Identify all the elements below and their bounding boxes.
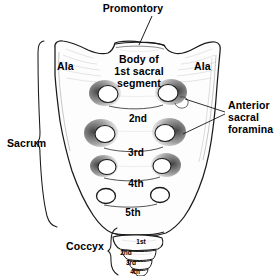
sacrum-brace — [36, 41, 57, 227]
label-coccygeal-segment-4th: 4th — [130, 268, 140, 276]
label-coccygeal-segment-1st: 1st — [136, 238, 145, 246]
label-anterior-line2: sacral — [228, 111, 259, 123]
label-sacral-segment-4th: 4th — [128, 178, 143, 190]
label-promontory: Promontory — [103, 2, 164, 14]
label-body-line1: Body of — [119, 53, 159, 65]
label-body-line3: segment — [117, 77, 161, 89]
sacrum-diagram: Promontory Ala Ala Body of 1st sacral se… — [0, 0, 277, 276]
label-anterior-line3: foramina — [228, 123, 273, 135]
label-coccygeal-segment-3rd: 3rd — [126, 259, 136, 267]
foramen-right-4 — [151, 188, 170, 203]
label-sacral-segment-2nd: 2nd — [129, 113, 147, 125]
label-body-line2: 1st sacral — [114, 65, 163, 77]
label-sacral-segment-5th: 5th — [125, 207, 140, 219]
label-sacral-segment-3rd: 3rd — [128, 147, 144, 159]
label-coccyx: Coccyx — [66, 240, 104, 252]
label-coccygeal-segment-2nd: 2nd — [120, 249, 132, 257]
label-ala-left: Ala — [57, 60, 74, 72]
label-anterior-line1: Anterior — [228, 99, 270, 111]
promontory-leader-line — [139, 16, 152, 45]
coccyx-brace — [108, 228, 118, 275]
label-ala-right: Ala — [194, 60, 211, 72]
label-sacrum: Sacrum — [7, 137, 46, 149]
foramen-left-4 — [97, 189, 116, 204]
